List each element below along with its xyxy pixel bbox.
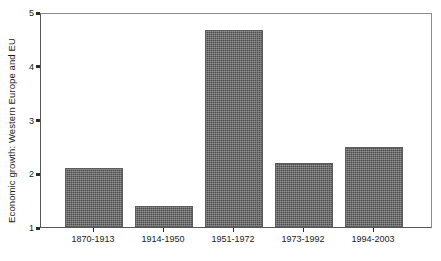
y-tick-label: 5 (29, 6, 34, 20)
bar-1994-2003 (345, 147, 403, 227)
y-tick-label: 3 (29, 114, 34, 128)
x-tick-3 (233, 228, 234, 232)
x-axis-label-1914-1950: 1914-1950 (141, 234, 184, 244)
plot-area (40, 13, 432, 228)
x-axis-label-1951-1972: 1951-1972 (211, 234, 254, 244)
x-axis-label-1870-1913: 1870-1913 (71, 234, 114, 244)
y-tick-1: 1 (0, 228, 40, 229)
x-tick-5 (373, 228, 374, 232)
y-tick-5: 5 (0, 13, 40, 14)
bar-1951-1972 (205, 30, 263, 227)
bar-1973-1992 (275, 163, 333, 227)
y-tick-4: 4 (0, 67, 40, 68)
x-tick-1 (93, 228, 94, 232)
bar-chart-figure: Economic growth: Western Europe and EU 5… (0, 0, 441, 261)
y-tick-label: 1 (29, 221, 34, 235)
x-tick-4 (303, 228, 304, 232)
y-axis-title: Economic growth: Western Europe and EU (0, 0, 22, 261)
y-tick-label: 4 (29, 60, 34, 74)
bar-1914-1950 (135, 206, 193, 227)
y-tick-2: 2 (0, 174, 40, 175)
y-tick-label: 2 (29, 167, 34, 181)
x-axis-label-1973-1992: 1973-1992 (281, 234, 324, 244)
bar-1870-1913 (65, 168, 123, 227)
x-axis-label-1994-2003: 1994-2003 (351, 234, 394, 244)
x-tick-2 (163, 228, 164, 232)
y-tick-3: 3 (0, 121, 40, 122)
